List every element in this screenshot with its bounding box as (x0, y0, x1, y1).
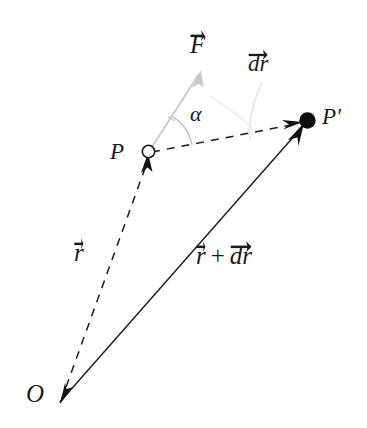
label-force-vector: F (190, 32, 205, 57)
vector-F-arrowhead (192, 70, 204, 88)
vector-dr-line (152, 124, 296, 152)
label-position-vector: r (74, 240, 84, 265)
label-angle-alpha: α (190, 103, 202, 125)
vector-diagram-canvas: F dr α P P′ r (0, 0, 367, 428)
label-displacement-vector: dr (248, 52, 268, 75)
label-point-P: P (110, 140, 124, 163)
vector-dr (152, 120, 303, 152)
vector-r-line (61, 160, 148, 401)
vector-r (61, 153, 153, 401)
label-sum-second-text: dr (230, 242, 252, 269)
label-point-P-prime: P′ (322, 105, 341, 128)
faint-guide-curve-secondary (210, 96, 252, 128)
point-P-marker (142, 145, 154, 157)
vector-r-plus-dr (60, 123, 304, 404)
label-position-vector-sum: r + dr (196, 243, 252, 268)
label-displacement-text: dr (248, 51, 268, 76)
label-position-vector-text: r (74, 239, 84, 266)
label-sum-operator: + (206, 242, 230, 269)
diagram-svg (0, 0, 367, 428)
vector-r-plus-dr-line (60, 126, 303, 402)
label-force-text: F (190, 31, 205, 58)
point-Pprime-marker (299, 112, 315, 128)
label-sum-first-text: r (196, 242, 206, 269)
label-origin-O: O (26, 381, 44, 406)
